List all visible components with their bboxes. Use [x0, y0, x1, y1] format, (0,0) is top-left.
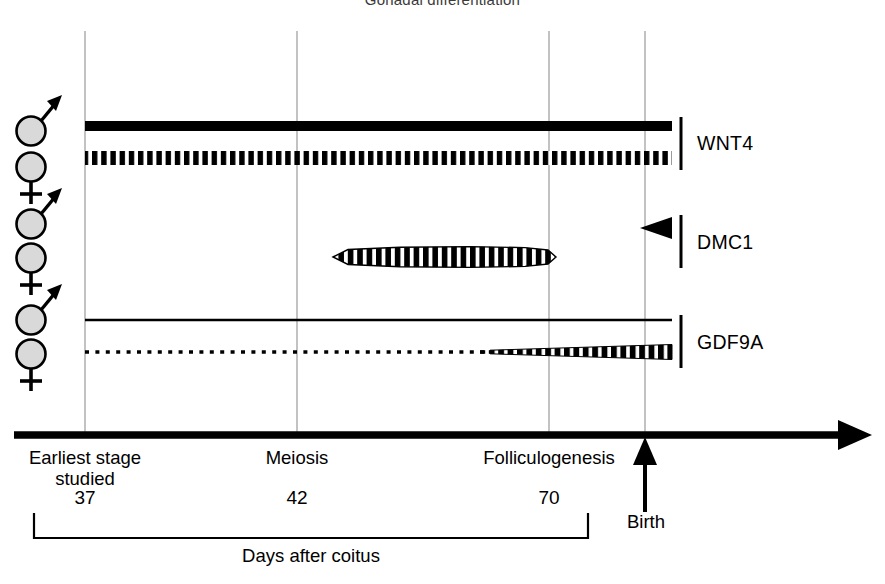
sex-symbol-group-dmc1 [17, 188, 63, 295]
stage-label-earliest-line1: Earliest stage [0, 447, 185, 468]
male-symbol [17, 95, 63, 146]
day-value-37: 37 [45, 487, 125, 509]
gene-label-dmc1: DMC1 [697, 231, 753, 254]
birth-label: Birth [606, 511, 686, 533]
stage-label-earliest: Earliest stage studied [0, 447, 185, 490]
gdf9a-bars [85, 320, 676, 364]
male-symbol [17, 284, 63, 335]
wnt4-bars [85, 121, 672, 165]
gene-label-gdf9a: GDF9A [697, 331, 764, 354]
gene-label-wnt4: WNT4 [697, 132, 753, 155]
day-value-70: 70 [509, 487, 589, 509]
sex-symbol-group-wnt4 [17, 95, 63, 204]
dmc1-bars [333, 245, 557, 269]
day-value-42: 42 [257, 487, 337, 509]
days-bracket [34, 513, 588, 538]
stage-label-folliculogenesis: Folliculogenesis [444, 447, 654, 469]
figure-canvas [0, 0, 885, 584]
time-axis [14, 420, 872, 450]
female-symbol [17, 244, 46, 296]
stage-label-meiosis: Meiosis [212, 447, 382, 469]
wnt4-female-bar [85, 151, 672, 165]
time-axis-arrowhead-icon [838, 420, 872, 450]
female-symbol [17, 340, 46, 392]
sex-symbol-group-gdf9a [17, 284, 63, 391]
figure-container: Gonadal differentiation [0, 0, 885, 584]
female-symbol [17, 153, 46, 205]
wnt4-male-bar [85, 121, 672, 131]
x-axis-label: Days after coitus [211, 545, 411, 567]
gridlines [85, 31, 645, 437]
